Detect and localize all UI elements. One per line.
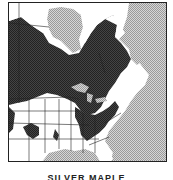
range-map-graphic [9, 3, 167, 162]
map-caption: SILVER MAPLE [0, 173, 173, 180]
range-map [8, 2, 167, 162]
